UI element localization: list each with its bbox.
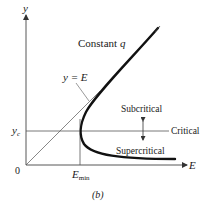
constant-q-label: Constant q [78, 37, 126, 49]
y-equals-e-line [26, 91, 100, 165]
origin-label: 0 [15, 165, 20, 176]
e-axis-label: E [188, 159, 196, 171]
yc-label: yc [11, 124, 21, 138]
emin-label: Emin [71, 168, 90, 182]
y-axis-label: y [22, 2, 28, 14]
specific-energy-diagram: y E 0 yc Emin Constant q y = E Subcritic… [0, 0, 213, 204]
subcritical-label: Subcritical [121, 104, 163, 114]
figure-caption: (b) [92, 189, 104, 201]
y-equals-e-leader [76, 83, 89, 101]
critical-label: Critical [171, 126, 200, 136]
supercritical-label: Supercritical [116, 146, 165, 156]
y-equals-e-label: y = E [62, 71, 88, 83]
